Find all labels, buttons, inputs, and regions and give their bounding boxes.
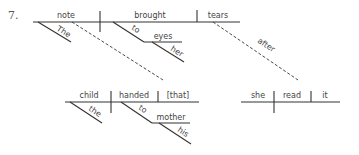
relative-prep-object: mother	[156, 113, 186, 122]
item-number: 7.	[8, 9, 19, 22]
adverbial-verb: read	[283, 91, 301, 100]
adverbial-clause: she read it	[241, 91, 340, 113]
relative-clause-connector	[72, 22, 163, 80]
main-verb: brought	[134, 11, 165, 20]
relative-subject-modifier: the	[87, 104, 103, 119]
relative-preposition-line	[121, 102, 152, 123]
main-prep-object: eyes	[154, 32, 173, 41]
relative-object: [that]	[167, 91, 190, 100]
main-subject: note	[57, 11, 75, 20]
adverbial-connector-word: after	[256, 36, 277, 54]
relative-subject: child	[80, 91, 99, 100]
sentence-diagram: 7. note brought tears The to eyes her af…	[0, 0, 359, 155]
main-object: tears	[208, 11, 228, 20]
main-preposition: to	[130, 23, 142, 35]
adverbial-clause-connector	[213, 22, 298, 80]
adverbial-subject: she	[251, 91, 265, 100]
main-clause: note brought tears The to eyes her	[33, 10, 240, 62]
main-prep-object-modifier: her	[169, 44, 186, 59]
relative-verb: handed	[119, 91, 149, 100]
adverbial-object: it	[322, 91, 327, 100]
relative-prep-object-modifier: his	[176, 125, 191, 139]
relative-clause: child handed [that] the to mother his	[65, 91, 199, 144]
